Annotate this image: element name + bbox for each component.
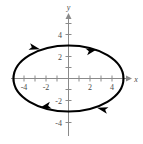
graph-figure: -4 -2 2 4 x 4 2 -2 -4 y (0, 0, 143, 144)
coordinate-plane-plot: -4 -2 2 4 x 4 2 -2 -4 y (0, 0, 143, 144)
x-axis-label: x (133, 75, 138, 84)
x-tick-label-2: 2 (88, 83, 92, 92)
y-tick-label-minus4: -4 (55, 119, 62, 128)
y-tick-label-4: 4 (58, 31, 62, 40)
y-axis-group: 4 2 -2 -4 y (55, 3, 71, 136)
y-axis-label: y (66, 3, 71, 12)
y-tick-label-2: 2 (58, 53, 62, 62)
x-tick-label-minus2: -2 (43, 83, 50, 92)
y-tick-label-minus2: -2 (55, 97, 62, 106)
x-tick-label-4: 4 (110, 83, 114, 92)
x-axis-arrowhead (126, 76, 132, 82)
x-axis-group: -4 -2 2 4 x (11, 75, 138, 93)
y-axis-arrowhead (66, 13, 72, 19)
x-tick-label-minus4: -4 (21, 83, 28, 92)
